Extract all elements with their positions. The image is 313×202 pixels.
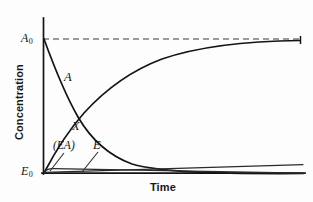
curve-label-ea: (EA) <box>53 140 75 152</box>
curve-label-e: E <box>93 139 101 152</box>
y-tick-a0-base: A <box>21 31 28 45</box>
x-axis-title: Time <box>150 182 176 193</box>
curve-label-x: X <box>72 120 80 133</box>
y-tick-a0-sub: 0 <box>29 37 33 46</box>
y-tick-label-a0: A0 <box>21 32 32 44</box>
y-tick-e0-base: E <box>21 164 28 178</box>
y-tick-label-e0: E0 <box>21 165 32 177</box>
plot-area <box>0 0 313 202</box>
chart-figure: A0 E0 A X (EA) E Time Concentration <box>0 0 313 202</box>
y-tick-e0-sub: 0 <box>29 170 33 179</box>
curve-label-a: A <box>64 71 72 84</box>
curve-X <box>44 41 300 174</box>
curve-A <box>44 39 303 174</box>
y-axis-title: Concentration <box>14 64 25 140</box>
